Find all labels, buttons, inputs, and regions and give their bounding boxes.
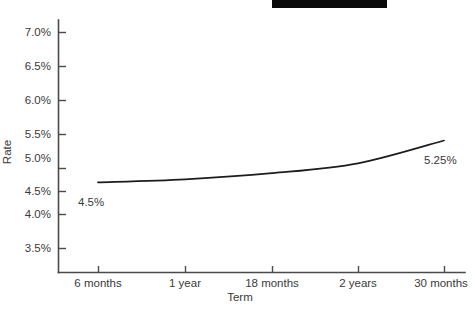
y-tick-label-3: 5.5% [25,128,51,140]
y-tick-label-6: 4.0% [25,208,51,220]
data-label-start: 4.5% [78,196,104,208]
x-tick-label-1: 1 year [169,277,201,289]
y-tick-label-0: 7.0% [25,26,51,38]
y-tick-label-7: 3.5% [25,242,51,254]
x-tick-label-2: 18 months [245,277,299,289]
chart-plot-area: 7.0% 6.5% 6.0% 5.5% 5.0% 4.5% 4.0% 3.5% … [0,0,475,310]
rate-curve [98,141,444,183]
x-tick-label-0: 6 months [74,277,122,289]
y-axis-title: Rate [1,140,13,164]
y-tick-label-4: 5.0% [25,152,51,164]
rate-vs-term-chart: 7.0% 6.5% 6.0% 5.5% 5.0% 4.5% 4.0% 3.5% … [0,0,475,310]
data-label-end: 5.25% [424,154,457,166]
y-tick-label-1: 6.5% [25,60,51,72]
x-tick-label-3: 2 years [339,277,377,289]
y-tick-label-2: 6.0% [25,94,51,106]
x-tick-label-4: 30 months [414,277,468,289]
x-axis-title: Term [227,291,253,303]
y-tick-label-5: 4.5% [25,185,51,197]
